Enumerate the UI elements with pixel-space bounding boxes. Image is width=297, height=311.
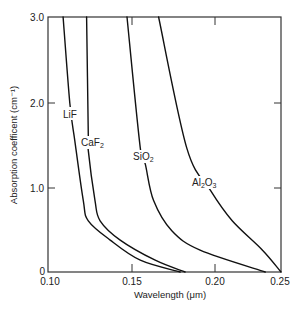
curve-al2o3: [159, 17, 281, 272]
y-tick-label: 2.0: [30, 98, 44, 109]
y-tick-label: 3.0: [30, 12, 44, 23]
y-axis: 3.0 2.0 1.0 0 Absorption coefficent (cm⁻…: [8, 12, 281, 277]
x-tick-label: 0.25: [270, 276, 290, 287]
x-tick-label: 0.15: [122, 276, 142, 287]
x-tick-label: 0.10: [40, 276, 60, 287]
x-tick-label: 0.20: [205, 276, 225, 287]
y-axis-title: Absorption coefficent (cm⁻¹): [8, 86, 19, 204]
absorption-chart: 3.0 2.0 1.0 0 Absorption coefficent (cm⁻…: [0, 0, 297, 311]
label-lif: LiF: [63, 109, 77, 120]
y-tick-label: 1.0: [30, 183, 44, 194]
x-axis-title: Wavelength (μm): [134, 289, 206, 300]
